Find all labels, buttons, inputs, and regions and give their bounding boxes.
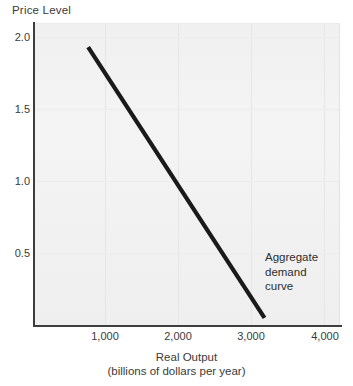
x-tick-label-1000: 1,000 <box>82 331 128 342</box>
y-tick-label-1-0: 1.0 <box>2 176 30 187</box>
y-tick-label-1-5: 1.5 <box>2 104 30 115</box>
gridline-vertical <box>178 23 179 326</box>
plot-border-right <box>339 23 340 325</box>
y-axis-line <box>33 22 35 327</box>
aggregate-demand-curve-label: Aggregate demand curve <box>265 250 318 294</box>
gridline-horizontal <box>33 37 340 38</box>
annotation-line-3: curve <box>265 279 318 294</box>
x-tick-label-3000: 3,000 <box>228 331 274 342</box>
annotation-line-2: demand <box>265 265 318 280</box>
x-tick-label-2000: 2,000 <box>155 331 201 342</box>
x-axis-title: Real Output <box>33 350 340 364</box>
gridline-vertical <box>105 23 106 326</box>
annotation-line-1: Aggregate <box>265 250 318 265</box>
gridline-horizontal <box>33 181 340 182</box>
x-axis-line <box>33 325 342 327</box>
x-tick-label-4000: 4,000 <box>302 331 348 342</box>
y-axis-title: Price Level <box>12 4 71 16</box>
aggregate-demand-chart: Price Level 2.0 1.5 1.0 0.5 1,000 2,000 … <box>0 0 353 386</box>
y-tick-label-0-5: 0.5 <box>2 248 30 259</box>
gridline-horizontal <box>33 109 340 110</box>
y-tick-label-2-0: 2.0 <box>2 32 30 43</box>
gridline-vertical <box>251 23 252 326</box>
gridline-vertical <box>324 23 325 326</box>
x-axis-subtitle: (billions of dollars per year) <box>13 364 340 378</box>
plot-border-top <box>33 23 340 24</box>
